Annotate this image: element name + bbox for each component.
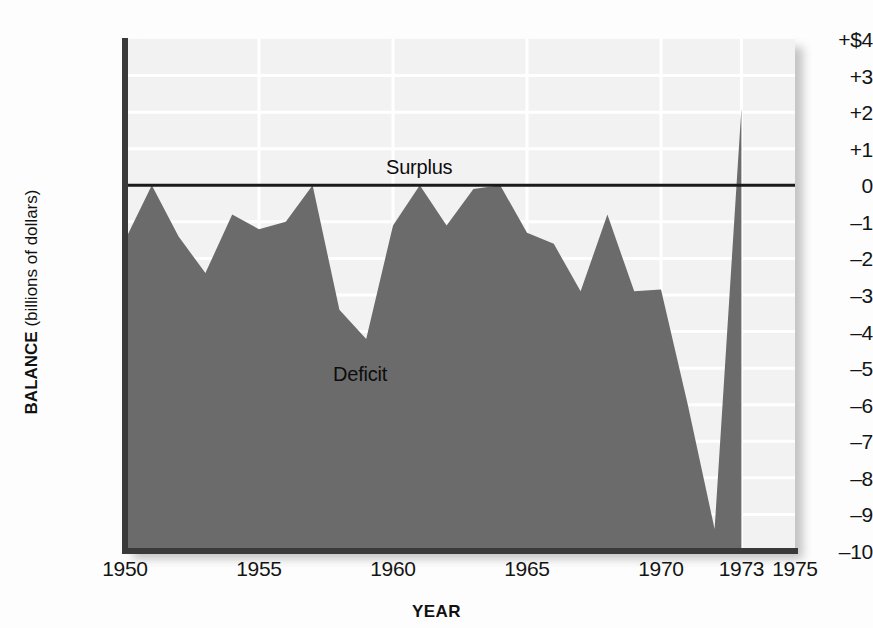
deficit-annotation: Deficit bbox=[333, 363, 387, 386]
y-tick-label: +3 bbox=[755, 65, 873, 86]
y-tick-label: 0 bbox=[755, 175, 873, 196]
x-axis-title: YEAR bbox=[0, 602, 873, 622]
y-tick-label: –3 bbox=[755, 285, 873, 306]
y-tick-label: –2 bbox=[755, 248, 873, 269]
y-tick-label: –6 bbox=[755, 394, 873, 415]
x-tick-label: 1973 bbox=[719, 558, 765, 579]
y-tick-label: +2 bbox=[755, 102, 873, 123]
plot-area bbox=[125, 39, 795, 551]
y-tick-label: –7 bbox=[755, 431, 873, 452]
x-tick-label: 1960 bbox=[370, 558, 416, 579]
x-tick-label: 1965 bbox=[504, 558, 550, 579]
chart-page: +$4+3+2+10–1–2–3–4–5–6–7–8–9–10 19501955… bbox=[0, 0, 873, 628]
y-tick-label: +$4 bbox=[755, 29, 873, 50]
x-tick-label: 1970 bbox=[638, 558, 684, 579]
y-axis-title: BALANCE (billions of dollars) bbox=[22, 102, 42, 502]
y-axis-spine bbox=[122, 38, 128, 554]
balance-area-chart bbox=[125, 39, 795, 551]
x-tick-label: 1975 bbox=[772, 558, 818, 579]
x-tick-label: 1950 bbox=[102, 558, 148, 579]
y-tick-label: –9 bbox=[755, 504, 873, 525]
y-axis-title-units: (billions of dollars) bbox=[22, 190, 41, 332]
x-tick-label: 1955 bbox=[236, 558, 282, 579]
x-axis-spine bbox=[122, 548, 798, 554]
y-tick-label: –4 bbox=[755, 321, 873, 342]
y-tick-label: –5 bbox=[755, 358, 873, 379]
y-tick-label: +1 bbox=[755, 138, 873, 159]
y-tick-label: –1 bbox=[755, 211, 873, 232]
y-tick-label: –8 bbox=[755, 467, 873, 488]
y-axis-title-main: BALANCE bbox=[22, 331, 41, 414]
surplus-annotation: Surplus bbox=[386, 156, 452, 179]
